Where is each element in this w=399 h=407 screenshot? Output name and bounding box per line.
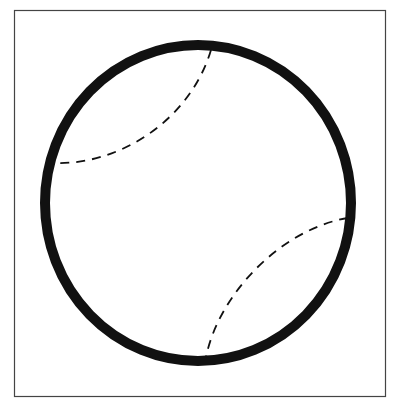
tennis-ball-figure [0, 0, 399, 407]
figure-frame [15, 11, 386, 397]
